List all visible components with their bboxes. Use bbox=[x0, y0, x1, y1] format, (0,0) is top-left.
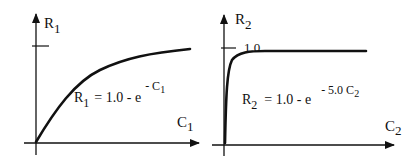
left-diagram: R1 C1 R1= 1.0 - e- C1 bbox=[24, 14, 199, 155]
diagram-canvas: R1 C1 R1= 1.0 - e- C1 1.0 R2 C2 R2= 1.0 … bbox=[0, 0, 420, 164]
right-diagram: 1.0 R2 C2 R2= 1.0 - e- 5.0 C2 bbox=[212, 11, 402, 156]
right-x-axis-label: C2 bbox=[385, 118, 402, 138]
right-equation: R2= 1.0 - e- 5.0 C2 bbox=[242, 83, 359, 112]
left-x-axis-label: C1 bbox=[177, 114, 194, 134]
left-y-axis-label: R1 bbox=[44, 15, 61, 36]
left-equation: R1= 1.0 - e- C1 bbox=[74, 79, 165, 110]
right-y-axis-label: R2 bbox=[235, 11, 252, 32]
